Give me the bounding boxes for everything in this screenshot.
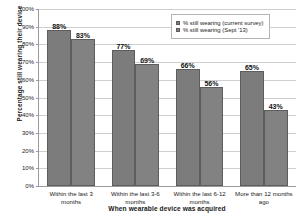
bar[interactable]: 65%	[240, 71, 264, 186]
bar-group: 88%83%Within the last 3months	[47, 9, 95, 186]
y-axis-tick	[36, 27, 39, 28]
y-axis-tick	[36, 9, 39, 10]
bar[interactable]: 56%	[200, 87, 224, 186]
y-axis-tick-label: 50%	[22, 95, 34, 101]
legend-color-swatch	[176, 28, 180, 32]
y-axis-tick	[36, 80, 39, 81]
legend-label: % still wearing (current survey)	[183, 20, 264, 26]
bar-value-label: 83%	[76, 32, 90, 39]
y-axis-tick	[36, 98, 39, 99]
bar-value-label: 65%	[245, 64, 259, 71]
y-axis-tick	[36, 44, 39, 45]
x-axis-title: When wearable device was acquired	[38, 205, 296, 212]
y-axis-tick-label: 30%	[22, 130, 34, 136]
y-axis-tick	[36, 186, 39, 187]
bar-value-label: 43%	[269, 103, 283, 110]
y-axis-tick-label: 20%	[22, 148, 34, 154]
bar-value-label: 88%	[52, 23, 66, 30]
y-axis-tick-label: 100%	[19, 6, 34, 12]
bar-group: 77%69%Within the last 3-6months	[112, 9, 160, 186]
y-axis-tick	[36, 151, 39, 152]
x-axis-category-label: Within the last 3-6months	[103, 190, 167, 205]
bar[interactable]: 69%	[135, 64, 159, 186]
y-axis-tick-label: 40%	[22, 112, 34, 118]
bar[interactable]: 66%	[176, 69, 200, 186]
bar-value-label: 56%	[204, 80, 218, 87]
x-axis-category-label: Within the last 6-12months	[168, 190, 232, 205]
bar-chart: Percentage still wearing their device 0%…	[0, 0, 300, 221]
legend-color-swatch	[176, 21, 180, 25]
legend-item[interactable]: % still wearing (current survey)	[176, 20, 264, 26]
y-axis-tick-label: 60%	[22, 77, 34, 83]
y-axis-tick	[36, 62, 39, 63]
legend-label: % still wearing (Sept '13)	[183, 27, 248, 33]
y-axis-tick	[36, 115, 39, 116]
bar[interactable]: 77%	[112, 50, 136, 186]
y-axis-tick-label: 0%	[25, 183, 34, 189]
y-axis-tick-label: 10%	[22, 165, 34, 171]
x-axis-category-label: More than 12 monthsago	[232, 190, 296, 205]
y-axis-tick-label: 70%	[22, 59, 34, 65]
bar-value-label: 77%	[116, 43, 130, 50]
legend-item[interactable]: % still wearing (Sept '13)	[176, 27, 264, 33]
bar[interactable]: 83%	[71, 39, 95, 186]
bar[interactable]: 88%	[47, 30, 71, 186]
y-axis-tick	[36, 133, 39, 134]
y-axis-tick	[36, 168, 39, 169]
chart-legend: % still wearing (current survey)% still …	[171, 14, 270, 39]
y-axis-tick-label: 90%	[22, 24, 34, 30]
bar[interactable]: 43%	[264, 110, 288, 186]
bar-value-label: 69%	[140, 57, 154, 64]
y-axis-tick-label: 80%	[22, 41, 34, 47]
bar-value-label: 66%	[181, 62, 195, 69]
x-axis-category-label: Within the last 3months	[39, 190, 103, 205]
